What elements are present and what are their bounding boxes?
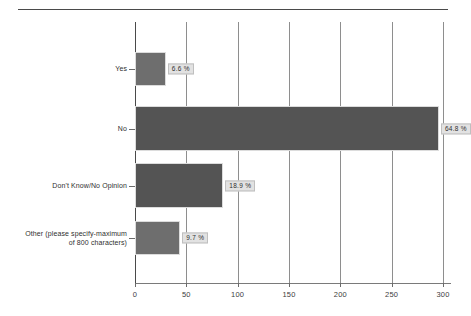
x-tick-300	[443, 283, 444, 287]
bar	[135, 106, 439, 151]
x-tick-label-100: 100	[231, 290, 244, 299]
x-axis-baseline	[135, 283, 451, 284]
x-tick-0	[135, 283, 136, 287]
category-label: Don't Know/No Opinion	[0, 181, 127, 190]
bar	[135, 163, 223, 208]
x-tick-150	[289, 283, 290, 287]
x-tick-label-50: 50	[182, 290, 191, 299]
bar	[135, 221, 180, 255]
bar-value-label: 18.9 %	[225, 180, 255, 191]
x-tick-100	[238, 283, 239, 287]
x-tick-label-150: 150	[282, 290, 295, 299]
category-tick	[129, 129, 135, 130]
bar-value-label: 6.6 %	[168, 63, 194, 74]
gridline-50	[186, 22, 187, 283]
category-label: No	[0, 124, 127, 133]
bar-value-label: 9.7 %	[182, 232, 208, 243]
x-tick-label-200: 200	[334, 290, 347, 299]
x-tick-label-250: 250	[385, 290, 398, 299]
x-tick-250	[392, 283, 393, 287]
x-tick-label-0: 0	[133, 290, 137, 299]
category-tick	[129, 69, 135, 70]
gridline-100	[238, 22, 239, 283]
category-label: Yes	[0, 64, 127, 73]
category-tick	[129, 238, 135, 239]
x-tick-200	[340, 283, 341, 287]
gridline-300	[443, 22, 444, 283]
gridline-150	[289, 22, 290, 283]
top-divider-rule	[18, 9, 448, 10]
x-tick-label-300: 300	[436, 290, 449, 299]
bar-value-label: 64.8 %	[441, 123, 471, 134]
gridline-200	[340, 22, 341, 283]
plot-area	[135, 22, 443, 283]
x-tick-50	[186, 283, 187, 287]
bar	[135, 52, 166, 86]
category-label: Other (please specify-maximum of 800 cha…	[0, 229, 127, 248]
category-tick	[129, 186, 135, 187]
gridline-250	[392, 22, 393, 283]
